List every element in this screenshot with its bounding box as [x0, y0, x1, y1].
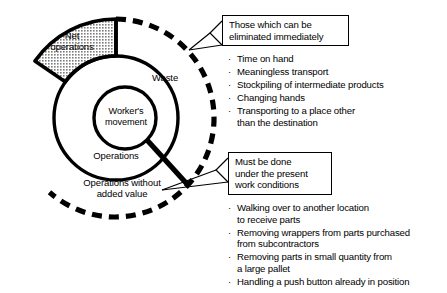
list-item: · Removing parts in small quantity from …	[228, 251, 446, 274]
diagram-page: Net operations Worker's movement Operati…	[0, 0, 447, 293]
callout-1-title-line-1: Those which can be	[229, 19, 343, 31]
callout-1-title-line-2: eliminated immediately	[229, 31, 343, 43]
bullet-dot-icon: ·	[228, 66, 231, 78]
bullet-dot-icon: ·	[228, 105, 231, 117]
label-operations-without-added-value: Operations without added value	[58, 177, 186, 199]
list-item-text: Stockpiling of intermediate products	[237, 79, 444, 91]
callout-1-bullet-list: · Time on hand · Meaningless transport ·…	[228, 53, 444, 130]
bullet-dot-icon: ·	[228, 251, 231, 263]
callout-2-title-line-1: Must be done	[235, 156, 326, 168]
list-item-text: Removing wrappers from parts purchased f…	[237, 227, 446, 250]
bullet-dot-icon: ·	[228, 92, 231, 104]
callout-title-eliminated-immediately: Those which can be eliminated immediatel…	[222, 15, 349, 46]
list-item: · Walking over to another location to re…	[228, 202, 446, 225]
list-item-text: Meaningless transport	[237, 66, 444, 78]
list-item: · Stockpiling of intermediate products	[228, 79, 444, 91]
list-item: · Transporting to a place other than the…	[228, 105, 444, 128]
bullet-dot-icon: ·	[228, 79, 231, 91]
bullet-dot-icon: ·	[228, 202, 231, 214]
list-item-text: Removing parts in small quantity from a …	[237, 251, 446, 274]
label-waste: Waste	[152, 72, 194, 83]
list-item: · Handling a push button already in posi…	[228, 276, 446, 288]
bullet-dot-icon: ·	[228, 53, 231, 65]
callout-2-title-line-2: under the present	[235, 168, 326, 180]
list-item: · Meaningless transport	[228, 66, 444, 78]
list-item-text: Transporting to a place other than the d…	[237, 105, 444, 128]
label-workers-movement: Worker's movement	[92, 106, 160, 128]
bullet-dot-icon: ·	[228, 227, 231, 239]
list-item: · Time on hand	[228, 53, 444, 65]
callout-2-leader	[216, 158, 228, 182]
list-item: · Changing hands	[228, 92, 444, 104]
bullet-dot-icon: ·	[228, 276, 231, 288]
list-item-text: Walking over to another location to rece…	[237, 202, 446, 225]
list-item-text: Handling a push button already in positi…	[237, 276, 446, 288]
label-operations: Operations	[82, 150, 150, 161]
callout-title-present-work-conditions: Must be done under the present work cond…	[228, 152, 332, 195]
callout-2-title-line-3: work conditions	[235, 179, 326, 191]
list-item: · Removing wrappers from parts purchased…	[228, 227, 446, 250]
callout-2-bullet-list: · Walking over to another location to re…	[228, 202, 446, 289]
callout-1-leader	[210, 21, 222, 45]
list-item-text: Time on hand	[237, 53, 444, 65]
list-item-text: Changing hands	[237, 92, 444, 104]
label-net-operations: Net operations	[35, 30, 109, 52]
